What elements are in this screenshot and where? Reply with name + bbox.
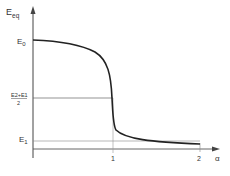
curve-line xyxy=(33,40,200,144)
x-tick-2: 2 xyxy=(197,155,201,162)
x-axis-arrow-icon xyxy=(212,147,220,152)
e0-label: E0 xyxy=(17,37,26,47)
x-tick-1: 1 xyxy=(111,155,115,162)
midpoint-label-numerator: E2+E1 xyxy=(11,92,28,98)
midpoint-label-denominator: 2 xyxy=(17,100,20,106)
e1-label: E1 xyxy=(19,135,28,145)
x-axis-label: α xyxy=(215,154,220,163)
y-axis-arrow-icon xyxy=(31,6,36,14)
chart-canvas: Eeq E0 E2+E1 2 E1 1 2 α xyxy=(0,0,230,176)
y-axis-label: Eeq xyxy=(6,7,20,20)
